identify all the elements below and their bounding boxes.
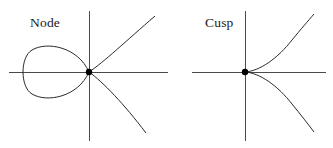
cusp-singular-point bbox=[242, 69, 248, 75]
cusp-label: Cusp bbox=[205, 15, 234, 30]
node-singular-point bbox=[86, 69, 92, 75]
singularity-figure: Node Cusp bbox=[0, 0, 333, 148]
node-label: Node bbox=[30, 15, 60, 30]
